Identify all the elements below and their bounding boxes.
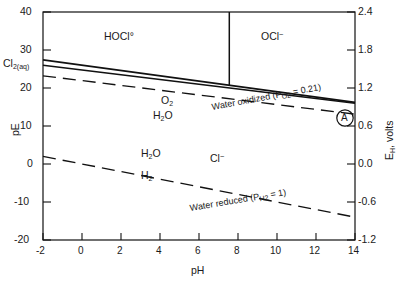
y-tick-label: 20 [20,82,32,93]
x-axis-title: pH [191,265,204,276]
species-label-o2: O2 [161,95,173,107]
y-axis-title: pE [10,123,21,136]
species-label-h2-sub: 2 [149,175,153,182]
species-label-cl2aq-sub: 2(aq) [13,63,29,70]
y-tick-label: 40 [20,6,32,17]
y-tick-label: 30 [20,44,32,55]
x-tick-label: 10 [270,246,281,256]
species-label-h2o-upper-tail: O [165,109,173,121]
species-label-h2o-lower-tail: O [153,147,161,159]
species-label-o2-sub: 2 [169,100,173,107]
species-label-hocl: HOCl° [104,31,134,42]
y2-tick-label: 0.6 [358,120,373,131]
x-tick-label: 12 [309,246,320,256]
species-label-h2-main: H [141,169,149,181]
pe-ph-diagram-figure: -2 0 2 4 6 8 10 12 14 40 30 20 10 0 -10 … [0,0,399,288]
x-tick-label: 14 [348,246,359,256]
x-axis-ticks [43,233,355,240]
y-axis-ticks [43,12,51,240]
species-label-ocl: OCl− [261,31,283,42]
species-label-h2: H2 [141,170,153,182]
species-label-ocl-charge: − [279,30,283,39]
y2-tick-label: -0.6 [358,196,376,207]
species-label-h2o-upper: H2O [153,110,173,122]
x-tick-label: 8 [234,246,240,256]
species-label-h2o-lower: H2O [141,148,161,160]
x-tick-label: -2 [36,246,45,256]
species-label-chloride-main: Cl [210,152,220,164]
y2-tick-label: 0.0 [358,158,373,169]
y2-axis-title-sub: H [389,148,396,153]
y-tick-label: 10 [20,120,32,131]
species-label-o2-main: O [161,94,169,106]
marker-a-label: A [341,113,348,123]
annotation-water-reduced-tail: = 1) [267,187,287,200]
y2-axis-title: EH, volts [384,120,396,160]
species-label-chloride: Cl− [210,153,224,164]
y-tick-label: -10 [14,196,29,207]
y2-tick-label: 2.4 [358,6,373,17]
y2-tick-label: -1.2 [358,234,376,245]
species-label-h2o-lower-main: H [141,147,149,159]
species-label-ocl-main: OCl [261,30,279,42]
species-label-cl2aq: Cl2(aq) [3,58,29,70]
species-label-cl2aq-main: Cl [3,57,13,69]
y-tick-label: -20 [14,234,29,245]
y2-axis-title-tail: , volts [383,120,395,147]
y2-axis-title-main: E [383,153,395,160]
x-tick-label: 2 [117,246,123,256]
x-tick-label: 6 [195,246,201,256]
x-tick-label: 0 [78,246,84,256]
x-tick-label: 4 [156,246,162,256]
y2-tick-label: 1.2 [358,82,373,93]
y2-tick-label: 1.8 [358,44,373,55]
y-tick-label: 0 [27,158,33,169]
species-label-h2o-upper-main: H [153,109,161,121]
species-label-chloride-charge: − [220,152,224,161]
